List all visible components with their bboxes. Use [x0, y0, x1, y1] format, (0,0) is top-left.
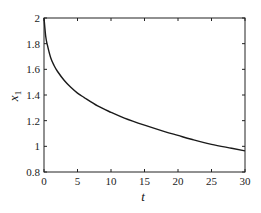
x-tick-label: 20 — [173, 175, 185, 187]
y-axis-label-subscript: 1 — [13, 91, 23, 96]
line-chart: 0.811.21.41.61.82 051015202530 t x1 — [0, 0, 261, 213]
x-axis-label: t — [141, 189, 145, 204]
y-tick-label: 1.2 — [26, 115, 40, 127]
y-tick-label: 1.8 — [26, 38, 40, 50]
y-tick-label: 0.8 — [26, 166, 40, 178]
x-tick-label: 10 — [106, 175, 118, 187]
y-tick-label: 1.6 — [26, 63, 40, 75]
plot-background — [0, 0, 261, 213]
y-tick-label: 1 — [35, 140, 41, 152]
x-tick-label: 25 — [206, 175, 218, 187]
x-tick-label: 0 — [41, 175, 47, 187]
y-tick-label: 1.4 — [26, 89, 40, 101]
y-tick-label: 2 — [35, 12, 41, 24]
x-tick-label: 15 — [139, 175, 151, 187]
x-tick-label: 5 — [75, 175, 81, 187]
x-tick-label: 30 — [240, 175, 252, 187]
